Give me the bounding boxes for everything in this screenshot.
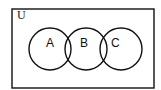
universe-label: U — [17, 8, 26, 22]
set-a-label: A — [46, 36, 54, 50]
set-b-label: B — [80, 36, 88, 50]
venn-diagram: U A B C — [0, 0, 161, 90]
set-c-label: C — [111, 36, 120, 50]
